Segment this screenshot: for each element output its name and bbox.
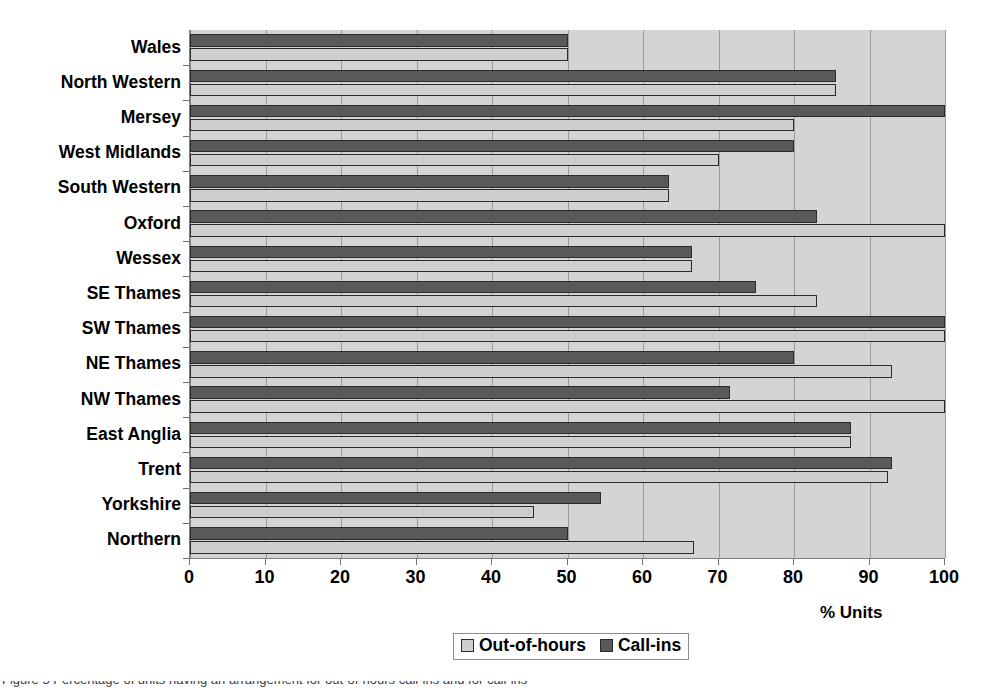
x-axis-tick-label-60: 60 bbox=[612, 568, 672, 586]
legend-label: Out-of-hours bbox=[479, 637, 586, 655]
x-axis-tick-label-40: 40 bbox=[461, 568, 521, 586]
bar-group bbox=[190, 65, 945, 100]
y-axis-label-wales: Wales bbox=[0, 39, 181, 57]
y-axis-label-south-western: South Western bbox=[0, 179, 181, 197]
y-axis-label-north-western: North Western bbox=[0, 74, 181, 92]
y-axis-tick bbox=[183, 347, 189, 348]
bar-out-of-hours bbox=[190, 400, 945, 413]
bar-series-container bbox=[190, 30, 945, 558]
y-axis-label-trent: Trent bbox=[0, 461, 181, 479]
x-axis-tick-0 bbox=[189, 559, 190, 565]
y-axis-label-se-thames: SE Thames bbox=[0, 285, 181, 303]
bar-call-ins bbox=[190, 246, 692, 259]
bar-call-ins bbox=[190, 34, 568, 47]
x-axis-tick-70 bbox=[718, 559, 719, 565]
y-axis-tick bbox=[183, 382, 189, 383]
y-axis-label-oxford: Oxford bbox=[0, 215, 181, 233]
bar-group bbox=[190, 452, 945, 487]
legend-swatch-icon bbox=[461, 639, 474, 652]
bar-group bbox=[190, 488, 945, 523]
y-axis-label-northern: Northern bbox=[0, 531, 181, 549]
y-axis-label-wessex: Wessex bbox=[0, 250, 181, 268]
y-axis-tick bbox=[183, 136, 189, 137]
bar-out-of-hours bbox=[190, 295, 817, 308]
x-axis-tick-60 bbox=[642, 559, 643, 565]
bar-call-ins bbox=[190, 422, 851, 435]
bar-out-of-hours bbox=[190, 260, 692, 273]
bar-out-of-hours bbox=[190, 224, 945, 237]
bar-group bbox=[190, 276, 945, 311]
chart-legend: Out-of-hoursCall-ins bbox=[453, 633, 689, 660]
bar-group bbox=[190, 382, 945, 417]
bar-group bbox=[190, 136, 945, 171]
bar-call-ins bbox=[190, 492, 601, 505]
bar-group bbox=[190, 347, 945, 382]
x-axis-tick-label-10: 10 bbox=[235, 568, 295, 586]
bar-out-of-hours bbox=[190, 119, 794, 132]
y-axis-label-sw-thames: SW Thames bbox=[0, 320, 181, 338]
bar-out-of-hours bbox=[190, 189, 669, 202]
legend-label: Call-ins bbox=[618, 637, 681, 655]
gridline-100 bbox=[945, 30, 946, 558]
bar-out-of-hours bbox=[190, 330, 945, 343]
figure-caption: Figure 5 Percentage of units having an a… bbox=[0, 681, 988, 694]
bar-call-ins bbox=[190, 105, 945, 118]
bar-call-ins bbox=[190, 386, 730, 399]
x-axis-tick-30 bbox=[416, 559, 417, 565]
x-axis-tick-label-70: 70 bbox=[688, 568, 748, 586]
bar-call-ins bbox=[190, 140, 794, 153]
x-axis-tick-20 bbox=[340, 559, 341, 565]
y-axis-tick bbox=[183, 312, 189, 313]
bar-out-of-hours bbox=[190, 506, 534, 519]
bar-group bbox=[190, 241, 945, 276]
y-axis-tick bbox=[183, 100, 189, 101]
bar-call-ins bbox=[190, 351, 794, 364]
bar-out-of-hours bbox=[190, 436, 851, 449]
y-axis-tick bbox=[183, 171, 189, 172]
y-axis-label-yorkshire: Yorkshire bbox=[0, 496, 181, 514]
y-axis-tick bbox=[183, 65, 189, 66]
x-axis-tick-label-100: 100 bbox=[914, 568, 974, 586]
y-axis-tick bbox=[183, 558, 189, 559]
bar-call-ins bbox=[190, 316, 945, 329]
bar-group bbox=[190, 523, 945, 558]
bar-out-of-hours bbox=[190, 154, 719, 167]
y-axis-category-labels: WalesNorth WesternMerseyWest MidlandsSou… bbox=[0, 30, 181, 558]
bar-call-ins bbox=[190, 175, 669, 188]
bar-group bbox=[190, 100, 945, 135]
bar-out-of-hours bbox=[190, 365, 892, 378]
figure-caption-text: Figure 5 Percentage of units having an a… bbox=[2, 681, 527, 687]
bar-group bbox=[190, 206, 945, 241]
y-axis-tick bbox=[183, 523, 189, 524]
x-axis-tick-90 bbox=[869, 559, 870, 565]
y-axis-label-nw-thames: NW Thames bbox=[0, 391, 181, 409]
bar-group bbox=[190, 312, 945, 347]
bar-out-of-hours bbox=[190, 471, 888, 484]
x-axis-tick-label-30: 30 bbox=[386, 568, 446, 586]
y-axis-label-ne-thames: NE Thames bbox=[0, 355, 181, 373]
x-axis-tick-50 bbox=[567, 559, 568, 565]
x-axis-title: % Units bbox=[820, 603, 882, 623]
y-axis-label-west-midlands: West Midlands bbox=[0, 144, 181, 162]
x-axis-tick-label-20: 20 bbox=[310, 568, 370, 586]
bar-out-of-hours bbox=[190, 84, 836, 97]
y-axis-tick bbox=[183, 241, 189, 242]
x-axis-tick-100 bbox=[944, 559, 945, 565]
bar-out-of-hours bbox=[190, 541, 694, 554]
bar-call-ins bbox=[190, 457, 892, 470]
y-axis-label-east-anglia: East Anglia bbox=[0, 426, 181, 444]
bar-call-ins bbox=[190, 527, 568, 540]
bar-group bbox=[190, 30, 945, 65]
bar-call-ins bbox=[190, 70, 836, 83]
bar-out-of-hours bbox=[190, 48, 568, 61]
y-axis-tick bbox=[183, 452, 189, 453]
x-axis-tick-40 bbox=[491, 559, 492, 565]
x-axis-tick-label-80: 80 bbox=[763, 568, 823, 586]
legend-swatch-icon bbox=[600, 639, 613, 652]
bar-group bbox=[190, 171, 945, 206]
x-axis-tick-label-0: 0 bbox=[159, 568, 219, 586]
y-axis-tick bbox=[183, 417, 189, 418]
bar-call-ins bbox=[190, 281, 756, 294]
x-axis-tick-label-90: 90 bbox=[839, 568, 899, 586]
legend-entry-outofhours: Out-of-hours bbox=[461, 637, 586, 655]
